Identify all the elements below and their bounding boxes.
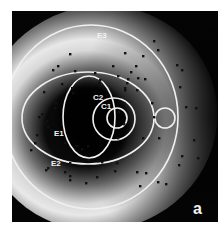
data-point [123, 123, 125, 125]
data-point [157, 181, 159, 183]
data-point [130, 71, 132, 73]
data-point [72, 92, 74, 94]
data-point [46, 120, 48, 122]
data-point [41, 113, 43, 115]
data-point [142, 55, 144, 57]
data-point [69, 164, 71, 166]
data-point [181, 155, 183, 157]
data-point [153, 116, 155, 118]
data-point [139, 185, 141, 187]
data-point [94, 72, 96, 74]
data-point [179, 86, 181, 88]
data-point [136, 171, 138, 173]
data-point [76, 145, 78, 147]
data-point [114, 170, 116, 172]
data-point [69, 53, 71, 55]
data-point [157, 49, 159, 51]
data-point [30, 149, 32, 151]
data-point [136, 89, 138, 91]
data-point [137, 77, 139, 79]
data-point [193, 139, 195, 141]
data-point [47, 126, 49, 128]
data-point [38, 116, 40, 118]
data-point [123, 102, 125, 104]
data-point [98, 82, 100, 84]
contour-label-c1: C1 [101, 102, 112, 111]
data-point [85, 182, 87, 184]
data-point [117, 137, 119, 139]
data-point [197, 157, 199, 159]
data-point [178, 164, 180, 166]
data-point [145, 172, 147, 174]
data-point [61, 83, 63, 85]
intensity-map: E3E2E1C2C1 a [0, 0, 224, 229]
figure-panel: E3E2E1C2C1 a [0, 0, 224, 229]
data-point [64, 142, 66, 144]
data-point [88, 159, 90, 161]
contour-label-e2: E2 [51, 159, 61, 168]
data-point [97, 160, 99, 162]
data-point [118, 111, 120, 113]
data-point [99, 79, 101, 81]
data-point [151, 102, 153, 104]
data-point [135, 65, 137, 67]
data-point [45, 169, 47, 171]
data-point [54, 107, 56, 109]
data-point [144, 78, 146, 80]
panel-label: a [193, 200, 202, 217]
data-point [52, 69, 54, 71]
data-point [101, 161, 103, 163]
data-point [117, 75, 119, 77]
contour-label-c2: C2 [93, 93, 104, 102]
data-point [153, 40, 155, 42]
data-point [195, 107, 197, 109]
data-point [55, 102, 57, 104]
data-point [158, 137, 160, 139]
data-point [69, 175, 71, 177]
data-point [185, 106, 187, 108]
data-point [36, 134, 38, 136]
data-point [44, 123, 46, 125]
contour-label-e3: E3 [97, 31, 107, 40]
data-point [64, 171, 66, 173]
data-point [71, 87, 73, 89]
data-point [96, 176, 98, 178]
data-point [126, 82, 128, 84]
data-point [87, 145, 89, 147]
data-point [165, 183, 167, 185]
data-point [69, 179, 71, 181]
data-point [116, 162, 118, 164]
data-point [181, 69, 183, 71]
data-point [74, 70, 76, 72]
contour-label-e1: E1 [54, 129, 64, 138]
data-point [43, 91, 45, 93]
data-point [81, 148, 83, 150]
data-point [124, 89, 126, 91]
data-point [127, 78, 129, 80]
data-point [112, 65, 114, 67]
data-point [34, 142, 36, 144]
data-point [176, 64, 178, 66]
data-point [142, 137, 144, 139]
data-point [57, 65, 59, 67]
data-point [124, 52, 126, 54]
data-point [91, 84, 93, 86]
